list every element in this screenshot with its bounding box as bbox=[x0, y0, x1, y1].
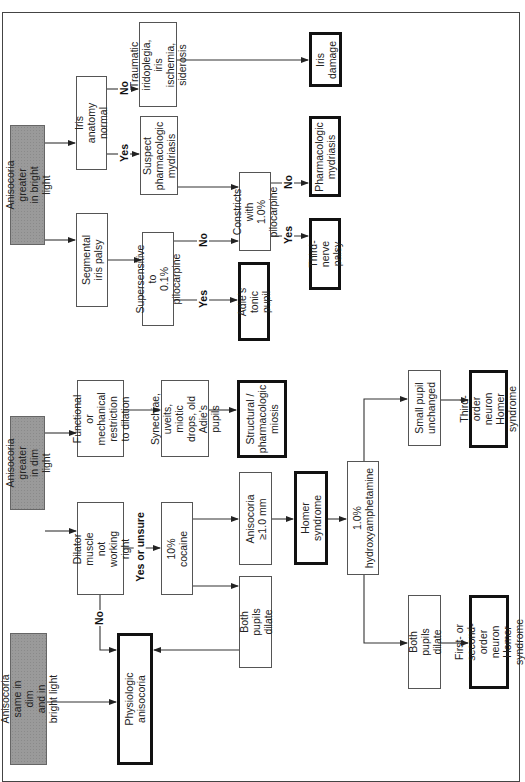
edge-label-yes: Yes bbox=[118, 143, 130, 163]
root-dim-light: Anisocoria greater in dim light bbox=[10, 416, 45, 510]
node-label: 10% cocaine bbox=[165, 530, 189, 566]
node-label: Segmental iris palsy bbox=[80, 235, 104, 285]
root-bright-light: Anisocoria greater in bright light bbox=[10, 125, 45, 245]
node-label: Adie's tonic pupil bbox=[236, 287, 272, 315]
node-cocaine: 10% cocaine bbox=[161, 502, 193, 595]
node-label: Traumatic iridoplegia, iris ischemia, si… bbox=[128, 39, 188, 90]
node-label: Third-nerve palsy bbox=[307, 240, 343, 267]
root-same-label: Anisocoria same in dim and in bright lig… bbox=[0, 674, 59, 723]
edge-label-no: No bbox=[197, 232, 209, 248]
node-label: Third-order neuron Homer syndrome bbox=[459, 386, 519, 432]
edge-label-yes: Yes bbox=[282, 225, 294, 245]
node-suspect-pharm-mydriasis: Suspect pharmacologic mydriasis bbox=[140, 116, 178, 195]
node-label: Iris anatomy normal bbox=[74, 103, 110, 143]
node-both-pupils-dilate-2: Both pupils dilate bbox=[408, 595, 441, 689]
node-label: Iris damage bbox=[314, 41, 338, 79]
node-label: Supersensitive to 0.1% pilocarpine bbox=[134, 245, 182, 314]
node-label: Structural / pharmacologic miosis bbox=[244, 385, 280, 453]
terminal-first-second-order: First- or second- order neuron Homer syn… bbox=[469, 595, 509, 689]
node-label: Dilator muscle not working right bbox=[71, 526, 131, 571]
node-segmental-iris-palsy: Segmental iris palsy bbox=[76, 213, 108, 307]
node-functional-restriction: Functional or mechanical restriction to … bbox=[77, 380, 124, 457]
node-iris-anatomy-normal: Iris anatomy normal bbox=[76, 76, 107, 170]
edge-label-no: No bbox=[282, 174, 294, 190]
edge-label-no: No bbox=[118, 80, 130, 96]
node-label: Physiologic anisocoria bbox=[123, 672, 147, 725]
root-same: Anisocoria same in dim and in bright lig… bbox=[10, 633, 47, 765]
node-label: Pharmacologic mydriasis bbox=[313, 122, 337, 191]
terminal-adies-tonic-pupil: Adie's tonic pupil bbox=[238, 262, 270, 341]
node-label: Homer syndrome bbox=[299, 495, 323, 541]
node-dilator-muscle: Dilator muscle not working right bbox=[77, 502, 124, 595]
node-synechiae: Synechiae, uveits, miotic drops, old Adi… bbox=[161, 380, 209, 457]
node-hydroxyamphetamine: 1.0% hydroxyamphetamine bbox=[347, 461, 379, 575]
terminal-structural-miosis: Structural / pharmacologic miosis bbox=[237, 380, 287, 458]
node-label: First- or second- order neuron Homer syn… bbox=[453, 619, 525, 665]
node-label: Constricts with 1.0% pilocarpine bbox=[231, 186, 279, 237]
node-label: Anisocoria ≥1.0 mm bbox=[244, 494, 268, 543]
node-small-pupil-unchanged: Small pupil unchanged bbox=[408, 370, 441, 446]
node-label: Synechiae, uveits, miotic drops, old Adi… bbox=[149, 393, 221, 445]
root-dim-light-label: Anisocoria greater in dim light bbox=[4, 438, 52, 487]
edge-label-no: No bbox=[93, 610, 105, 626]
node-supersensitive: Supersensitive to 0.1% pilocarpine bbox=[142, 232, 174, 326]
node-label: Suspect pharmacologic mydriasis bbox=[141, 121, 177, 189]
node-label: Both pupils dilate bbox=[238, 607, 274, 638]
node-label: 1.0% hydroxyamphetamine bbox=[351, 468, 375, 568]
edge-label-yes-or-unsure: Yes or unsure bbox=[134, 511, 146, 582]
node-anisocoria-1mm: Anisocoria ≥1.0 mm bbox=[239, 472, 272, 565]
node-label: Both pupils dilate bbox=[407, 627, 443, 658]
terminal-physiologic-anisocoria: Physiologic anisocoria bbox=[117, 633, 153, 765]
terminal-third-nerve-palsy: Third-nerve palsy bbox=[309, 218, 341, 290]
node-constricts: Constricts with 1.0% pilocarpine bbox=[239, 172, 271, 251]
edge-label-yes: Yes bbox=[197, 289, 209, 309]
root-bright-light-label: Anisocoria greater in bright light bbox=[4, 160, 52, 209]
node-homer-syndrome: Homer syndrome bbox=[294, 471, 328, 565]
terminal-pharm-mydriasis: Pharmacologic mydriasis bbox=[309, 116, 341, 197]
node-label: Small pupil unchanged bbox=[413, 382, 437, 434]
node-both-pupils-dilate-1: Both pupils dilate bbox=[239, 576, 272, 668]
node-traumatic: Traumatic iridoplegia, iris ischemia, si… bbox=[139, 22, 177, 107]
terminal-iris-damage: Iris damage bbox=[309, 32, 342, 87]
node-label: Functional or mechanical restriction to … bbox=[71, 392, 131, 445]
terminal-third-order-neuron: Third-order neuron Homer syndrome bbox=[469, 370, 508, 448]
